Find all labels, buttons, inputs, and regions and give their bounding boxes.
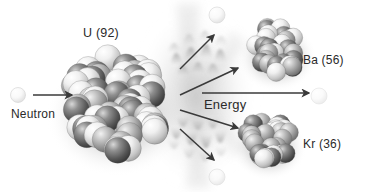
arrow-fission-to-krypton — [180, 110, 238, 128]
label-uranium: U (92) — [83, 26, 119, 40]
label-krypton: Kr (36) — [303, 137, 341, 151]
arrows-layer — [0, 0, 367, 192]
arrow-fission-up-neutron — [180, 35, 214, 69]
nuclear-fission-diagram: U (92) Neutron Ba (56) Kr (36) Energy — [0, 0, 367, 192]
arrow-fission-down-neutron — [180, 129, 214, 160]
label-energy: Energy — [204, 97, 246, 112]
label-barium: Ba (56) — [303, 53, 344, 67]
label-neutron: Neutron — [11, 107, 55, 121]
arrow-fission-to-barium — [180, 68, 238, 95]
